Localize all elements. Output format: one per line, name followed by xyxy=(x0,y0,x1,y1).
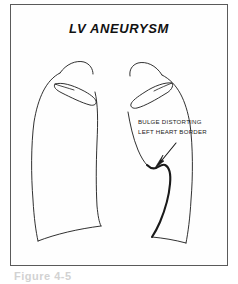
right-lung-apex xyxy=(60,61,93,74)
right-clavicle-inner-line xyxy=(55,84,74,90)
right-clavicle xyxy=(54,83,96,105)
left-lung-outline xyxy=(162,75,192,243)
chest-xray-line-drawing xyxy=(0,0,238,284)
annotation-line-1: BULGE DISTORTING xyxy=(138,117,207,127)
right-hemidiaphragm xyxy=(38,226,101,241)
right-lung-outline xyxy=(32,73,60,241)
left-lung-apex xyxy=(130,63,162,77)
left-hemidiaphragm xyxy=(152,237,186,243)
figure-caption-partial: Figure 4-5 xyxy=(14,270,134,283)
right-mediastinal-border xyxy=(95,92,101,226)
left-heart-border-bulge xyxy=(147,165,170,237)
bulge-annotation: BULGE DISTORTING LEFT HEART BORDER xyxy=(138,117,207,136)
annotation-line-2: LEFT HEART BORDER xyxy=(138,127,207,137)
left-clavicle xyxy=(131,83,173,108)
figure-root: LV ANEURYSM BULGE DISTORTING LEFT xyxy=(0,0,238,284)
